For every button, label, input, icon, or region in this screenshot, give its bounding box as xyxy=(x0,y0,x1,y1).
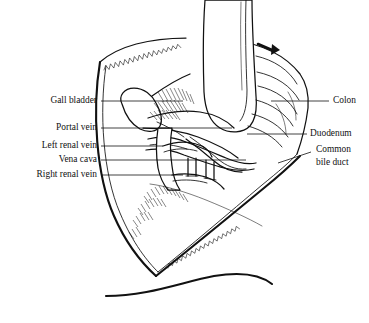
diagram-canvas: Gall bladder Portal vein Left renal vein… xyxy=(0,0,369,323)
label-left-renal-vein[interactable]: Left renal vein xyxy=(42,140,163,150)
label-duodenum[interactable]: Duodenum xyxy=(247,128,352,138)
label-text-left-renal-vein: Left renal vein xyxy=(42,140,97,150)
vessel-stump-ties xyxy=(186,176,216,180)
label-text-common-bile-duct-line2: bile duct xyxy=(316,157,349,167)
label-text-vena-cava: Vena cava xyxy=(59,154,98,164)
label-text-right-renal-vein: Right renal vein xyxy=(37,169,98,179)
label-text-portal-vein: Portal vein xyxy=(56,122,97,132)
fold-4 xyxy=(256,100,293,126)
label-text-colon: Colon xyxy=(333,95,356,105)
laparotomy-wound-outline xyxy=(96,38,308,280)
vessel-stump-1 xyxy=(188,158,196,176)
cut-edge-serration-lower-right xyxy=(166,214,239,280)
fold-5 xyxy=(252,114,288,137)
label-group-right: Colon Duodenum Common bile duct xyxy=(247,95,356,167)
bed-contour xyxy=(150,184,262,226)
colon-retracted-band xyxy=(203,0,256,132)
fold-6 xyxy=(248,126,282,147)
clipped-caption xyxy=(0,314,369,323)
colon-band-outline xyxy=(203,0,256,132)
right-renal-vein-lower-border xyxy=(173,180,207,183)
anatomical-figure: Gall bladder Portal vein Left renal vein… xyxy=(0,0,369,323)
cut-edge-serration-upper-left xyxy=(103,43,181,71)
label-common-bile-duct[interactable]: Common bile duct xyxy=(278,144,351,167)
label-text-gall-bladder: Gall bladder xyxy=(50,95,97,105)
retroperitoneal-tissue-bed xyxy=(129,184,262,239)
label-colon[interactable]: Colon xyxy=(271,95,356,105)
abdominal-wall-contour-line xyxy=(106,274,272,296)
label-text-duodenum: Duodenum xyxy=(310,128,352,138)
label-text-common-bile-duct-line1: Common xyxy=(316,144,351,154)
liver-free-edge xyxy=(152,74,190,96)
gall-bladder-fundus xyxy=(121,88,162,131)
fold-1 xyxy=(256,56,297,84)
wound-edge-right-inner xyxy=(158,154,297,272)
fold-2 xyxy=(257,72,299,100)
